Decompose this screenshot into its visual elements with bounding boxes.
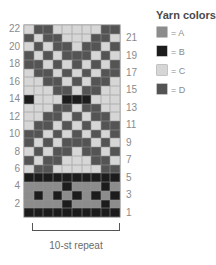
stitch-cell: [82, 25, 92, 34]
stitch-cell: [91, 51, 101, 60]
stitch-cell: [43, 95, 53, 104]
stitch-cell: [110, 130, 120, 139]
stitch-cell: [101, 173, 111, 182]
stitch-cell: [62, 191, 72, 200]
stitch-cell: [91, 138, 101, 147]
stitch-cell: [72, 147, 82, 156]
stitch-cell: [62, 104, 72, 113]
stitch-cell: [110, 182, 120, 191]
stitch-cell: [24, 173, 34, 182]
stitch-cell: [101, 86, 111, 95]
stitch-cell: [24, 165, 34, 174]
stitch-cell: [82, 156, 92, 165]
stitch-cell: [110, 34, 120, 43]
stitch-cell: [91, 156, 101, 165]
stitch-cell: [43, 60, 53, 69]
stitch-cell: [34, 130, 44, 139]
stitch-cell: [43, 191, 53, 200]
stitch-cell: [91, 60, 101, 69]
row-label-13: 13: [126, 103, 140, 113]
stitch-cell: [91, 130, 101, 139]
stitch-cell: [43, 121, 53, 130]
stitch-cell: [91, 165, 101, 174]
stitch-cell: [82, 42, 92, 51]
stitch-cell: [34, 121, 44, 130]
stitch-cell: [24, 208, 34, 217]
stitch-cell: [24, 112, 34, 121]
stitch-cell: [34, 34, 44, 43]
stitch-cell: [62, 173, 72, 182]
stitch-cell: [91, 121, 101, 130]
stitch-cell: [110, 173, 120, 182]
stitch-cell: [82, 51, 92, 60]
stitch-cell: [91, 208, 101, 217]
stitch-cell: [34, 112, 44, 121]
row-label-7: 7: [126, 155, 140, 165]
stitch-cell: [62, 34, 72, 43]
stitch-cell: [62, 77, 72, 86]
stitch-cell: [43, 34, 53, 43]
stitch-cell: [101, 51, 111, 60]
stitch-cell: [91, 112, 101, 121]
stitch-cell: [62, 95, 72, 104]
stitch-cell: [72, 34, 82, 43]
stitch-cell: [72, 86, 82, 95]
stitch-cell: [53, 112, 63, 121]
stitch-cell: [24, 130, 34, 139]
stitch-cell: [62, 156, 72, 165]
stitch-cell: [101, 200, 111, 209]
row-label-21: 21: [126, 33, 140, 43]
stitch-cell: [34, 60, 44, 69]
stitch-cell: [34, 156, 44, 165]
stitch-cell: [43, 77, 53, 86]
stitch-cell: [110, 156, 120, 165]
stitch-cell: [110, 165, 120, 174]
stitch-cell: [82, 130, 92, 139]
stitch-cell: [34, 69, 44, 78]
row-label-10: 10: [2, 129, 20, 139]
repeat-bracket: [32, 223, 120, 231]
stitch-cell: [82, 191, 92, 200]
stitch-cell: [62, 147, 72, 156]
stitch-cell: [72, 95, 82, 104]
stitch-cell: [110, 191, 120, 200]
stitch-cell: [43, 156, 53, 165]
stitch-cell: [91, 86, 101, 95]
row-label-2: 2: [2, 199, 20, 209]
stitch-cell: [62, 121, 72, 130]
stitch-cell: [72, 121, 82, 130]
stitch-cell: [53, 182, 63, 191]
colorwork-grid: [24, 25, 120, 217]
row-label-6: 6: [2, 164, 20, 174]
stitch-cell: [110, 121, 120, 130]
stitch-cell: [53, 104, 63, 113]
stitch-cell: [101, 165, 111, 174]
stitch-cell: [82, 121, 92, 130]
stitch-cell: [101, 95, 111, 104]
stitch-cell: [91, 173, 101, 182]
row-label-20: 20: [2, 42, 20, 52]
stitch-cell: [91, 200, 101, 209]
stitch-cell: [53, 86, 63, 95]
stitch-cell: [110, 138, 120, 147]
stitch-cell: [110, 25, 120, 34]
stitch-cell: [62, 25, 72, 34]
stitch-cell: [110, 200, 120, 209]
stitch-cell: [72, 138, 82, 147]
swatch-d: [157, 84, 167, 94]
stitch-cell: [101, 156, 111, 165]
stitch-cell: [62, 51, 72, 60]
stitch-cell: [24, 42, 34, 51]
stitch-cell: [82, 60, 92, 69]
row-label-12: 12: [2, 112, 20, 122]
stitch-cell: [34, 191, 44, 200]
legend-label-d: = D: [171, 85, 185, 95]
stitch-cell: [82, 95, 92, 104]
stitch-cell: [53, 60, 63, 69]
stitch-cell: [72, 112, 82, 121]
stitch-cell: [110, 60, 120, 69]
stitch-cell: [24, 191, 34, 200]
stitch-cell: [72, 208, 82, 217]
stitch-cell: [82, 173, 92, 182]
stitch-cell: [43, 69, 53, 78]
